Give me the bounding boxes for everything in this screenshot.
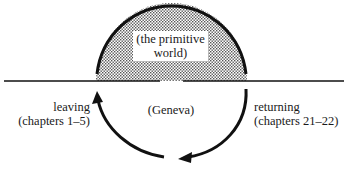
primitive-world-line2: world)	[133, 46, 208, 60]
primitive-world-label: (the primitive world)	[133, 32, 208, 60]
leaving-line1: leaving	[10, 100, 90, 114]
leaving-line2: (chapters 1–5)	[10, 114, 90, 128]
returning-arc	[188, 89, 246, 157]
leaving-arrowhead-icon	[92, 91, 103, 104]
leaving-label: leaving (chapters 1–5)	[10, 100, 90, 128]
returning-arrowhead-icon	[178, 152, 192, 163]
returning-line1: returning	[254, 100, 348, 114]
geneva-label: (Geneva)	[140, 103, 202, 117]
journey-diagram	[0, 0, 348, 179]
primitive-world-line1: (the primitive	[133, 32, 208, 46]
returning-label: returning (chapters 21–22)	[254, 100, 348, 128]
returning-line2: (chapters 21–22)	[254, 114, 348, 128]
